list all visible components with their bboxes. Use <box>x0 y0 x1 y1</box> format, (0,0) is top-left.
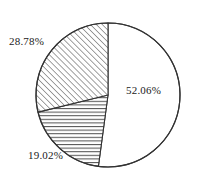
pie-label-major: 52.06% <box>126 84 161 96</box>
pie-label-horizontal: 19.02% <box>28 149 63 161</box>
pie-label-diagonal: 28.78% <box>9 35 44 47</box>
pie-chart-figure: 52.06% 28.78% 19.02% <box>0 0 197 183</box>
